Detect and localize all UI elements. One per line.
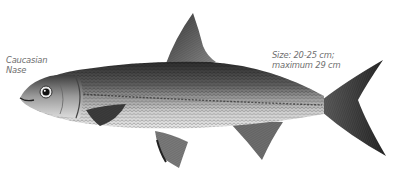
tail-fin (322, 60, 386, 156)
fish-head (20, 74, 83, 118)
fish-illustration (0, 0, 400, 178)
pelvic-fin (155, 131, 188, 168)
dorsal-fin (165, 13, 216, 67)
anal-fin (232, 121, 283, 160)
